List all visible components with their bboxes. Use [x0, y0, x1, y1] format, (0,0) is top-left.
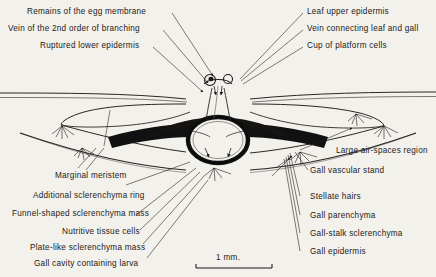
label-air-spaces: Large air-spaces region: [336, 146, 428, 155]
leader-line-marginal-meristem: [86, 110, 110, 170]
label-vein-connecting: Vein connecting leaf and gall: [307, 24, 419, 33]
label-leaf-upper-epidermis: Leaf upper epidermis: [307, 7, 389, 16]
scale-bar-label: 1 mm.: [216, 253, 240, 262]
label-stellate-hairs: Stellate hairs: [310, 192, 361, 201]
label-gall-vascular-stand: Gall vascular stand: [310, 166, 384, 175]
stellate-hair-center-lower: [204, 168, 231, 181]
label-nutritive-tissue: Nutritive tissue cells: [62, 227, 140, 236]
label-egg-membrane: Remains of the egg membrane: [27, 7, 146, 16]
label-plate-sclerenchyma: Plate-like sclerenchyma mass: [30, 243, 145, 252]
label-marginal-meristem: Marginal meristem: [55, 171, 127, 180]
gall-body: [108, 75, 328, 164]
label-funnel-sclerenchyma: Funnel-shaped sclerenchyma mass: [12, 209, 149, 218]
label-additional-sclerenchyma-ring: Additional sclerenchyma ring: [33, 191, 145, 200]
scale-bar: [196, 264, 272, 268]
label-gall-parenchyma: Gall parenchyma: [310, 211, 376, 220]
leader-lines-top-right: [240, 13, 303, 84]
label-ruptured-epidermis: Ruptured lower epidermis: [40, 41, 139, 50]
label-vein-2nd-order: Vein of the 2nd order of branching: [8, 24, 140, 33]
label-gall-epidermis: Gall epidermis: [310, 247, 366, 256]
label-gall-stalk-sclerenchyma: Gall-stalk sclerenchyma: [310, 229, 403, 238]
label-cup-platform-cells: Cup of platform cells: [307, 41, 387, 50]
label-gall-cavity-larva: Gall cavity containing larva: [34, 259, 138, 268]
